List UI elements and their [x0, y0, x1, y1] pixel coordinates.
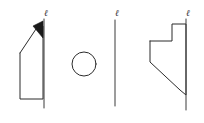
figure-canvas: ℓ ℓ ℓ: [0, 0, 204, 123]
circular-top-view-outline: [72, 52, 96, 76]
view-middle-line: ℓ: [115, 8, 119, 106]
view-right-profile: ℓ: [150, 8, 190, 110]
right-profile-outline: [150, 24, 186, 95]
view-left-profile: ℓ: [20, 8, 48, 108]
right-axis-label: ℓ: [186, 8, 190, 18]
technical-line-drawing: ℓ ℓ ℓ: [0, 0, 204, 123]
left-axis-label: ℓ: [44, 8, 48, 18]
view-middle-circle: [72, 52, 96, 76]
left-profile-filled-cap: [33, 21, 43, 38]
middle-axis-label: ℓ: [115, 8, 119, 18]
left-profile-outline: [20, 26, 43, 99]
